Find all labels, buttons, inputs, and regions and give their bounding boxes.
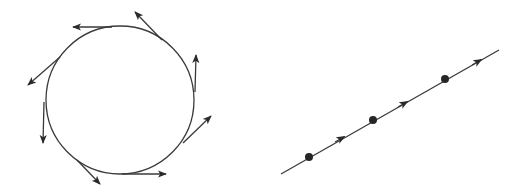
circle-tangent-figure [28, 12, 211, 184]
circle [46, 26, 194, 174]
point-dot [305, 153, 313, 161]
tangent-arrow-icon [135, 12, 162, 40]
point-dot [441, 75, 449, 83]
direction-arrow-icon [398, 102, 408, 107]
straight-line [281, 50, 499, 174]
tangent-arrow-icon [195, 55, 196, 92]
line-figure [281, 50, 499, 174]
direction-arrow-icon [472, 60, 482, 65]
tangent-arrow-icon [43, 102, 44, 143]
tangent-arrow-icon [28, 57, 60, 85]
tangent-arrow-icon [77, 160, 100, 184]
diagram-canvas [0, 0, 526, 190]
tangent-arrows [28, 12, 211, 184]
point-dot [369, 116, 377, 124]
